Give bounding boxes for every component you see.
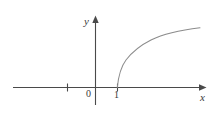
math-figure-log-curve: y x 0 1	[0, 0, 214, 119]
coordinate-plane	[0, 0, 214, 119]
log-curve-path	[117, 28, 200, 88]
x-tick-label-one: 1	[114, 90, 119, 100]
y-axis-arrowhead	[92, 16, 98, 24]
y-axis-label: y	[84, 16, 89, 27]
x-axis-label: x	[200, 92, 205, 103]
x-axis-arrowhead	[199, 84, 207, 90]
origin-label: 0	[86, 89, 91, 99]
